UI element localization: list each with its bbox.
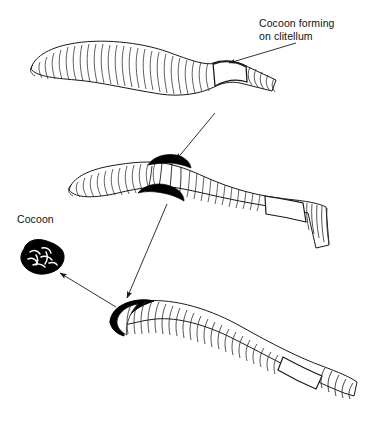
earthworm-cocoon-formation-diagram [0, 0, 375, 425]
label-cocoon-forming-line2: on clitellum [259, 30, 313, 42]
label-cocoon: Cocoon [17, 213, 54, 226]
label-cocoon-forming-on-clitellum: Cocoon formingon clitellum [259, 17, 335, 42]
label-cocoon-forming-line1: Cocoon forming [259, 17, 335, 29]
